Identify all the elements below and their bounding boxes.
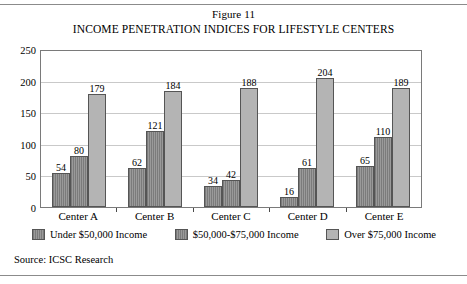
bar-group: 1661204 xyxy=(280,51,334,207)
bar-value-label: 80 xyxy=(74,146,84,156)
y-axis-tick-label: 100 xyxy=(2,139,36,150)
x-axis-labels: Center ACenter BCenter CCenter DCenter E xyxy=(40,210,422,222)
bar[interactable]: 34 xyxy=(204,186,222,207)
legend-item[interactable]: Over $75,000 Income xyxy=(326,229,436,240)
bar-value-label: 42 xyxy=(226,170,236,180)
legend-label: Over $75,000 Income xyxy=(344,229,436,240)
bar-value-label: 121 xyxy=(148,121,163,131)
figure-title-block: Figure 11 INCOME PENETRATION INDICES FOR… xyxy=(0,8,467,36)
plot-wrapper: 5480179621211843442188166120465110189 xyxy=(40,50,422,208)
bar-slot: 204 xyxy=(316,51,334,207)
y-axis-labels: 050100150200250 xyxy=(0,50,36,208)
bar-value-label: 34 xyxy=(208,176,218,186)
bar[interactable]: 62 xyxy=(128,168,146,207)
bottom-divider-rule xyxy=(0,275,467,276)
bar-value-label: 189 xyxy=(394,78,409,88)
bar-slot: 80 xyxy=(70,51,88,207)
bar[interactable]: 189 xyxy=(392,88,410,207)
bar-value-label: 61 xyxy=(302,158,312,168)
figure-container: Figure 11 INCOME PENETRATION INDICES FOR… xyxy=(0,0,467,284)
bar-value-label: 184 xyxy=(166,81,181,91)
bar[interactable]: 42 xyxy=(222,180,240,207)
bar[interactable]: 188 xyxy=(240,88,258,207)
bar-group: 3442188 xyxy=(204,51,258,207)
bar-slot: 188 xyxy=(240,51,258,207)
bar-value-label: 188 xyxy=(242,78,257,88)
legend-swatch-icon xyxy=(175,229,188,240)
chart-legend: Under $50,000 Income$50,000-$75,000 Inco… xyxy=(32,229,436,240)
top-divider-rule xyxy=(0,4,467,5)
bar[interactable]: 16 xyxy=(280,197,298,207)
bar[interactable]: 121 xyxy=(146,131,164,207)
bar-group: 65110189 xyxy=(356,51,410,207)
bar-slot: 121 xyxy=(146,51,164,207)
bar-value-label: 62 xyxy=(132,158,142,168)
bar[interactable]: 184 xyxy=(164,91,182,207)
legend-swatch-icon xyxy=(32,229,45,240)
bar-slot: 189 xyxy=(392,51,410,207)
bar-group: 5480179 xyxy=(52,51,106,207)
bar-slot: 34 xyxy=(204,51,222,207)
bar[interactable]: 65 xyxy=(356,166,374,207)
bar-slot: 110 xyxy=(374,51,392,207)
legend-swatch-icon xyxy=(326,229,339,240)
bar-slot: 16 xyxy=(280,51,298,207)
bar-value-label: 54 xyxy=(56,163,66,173)
bar-slot: 42 xyxy=(222,51,240,207)
bar-groups: 5480179621211843442188166120465110189 xyxy=(41,51,421,207)
legend-item[interactable]: $50,000-$75,000 Income xyxy=(175,229,299,240)
bar[interactable]: 80 xyxy=(70,156,88,207)
bar-slot: 179 xyxy=(88,51,106,207)
y-axis-tick-label: 0 xyxy=(2,203,36,214)
bar-value-label: 65 xyxy=(360,156,370,166)
x-axis-category-label: Center A xyxy=(58,210,97,222)
bar[interactable]: 179 xyxy=(88,94,106,207)
bar-slot: 54 xyxy=(52,51,70,207)
y-axis-tick-label: 200 xyxy=(2,76,36,87)
x-axis-category-label: Center C xyxy=(211,210,250,222)
y-axis-tick-label: 50 xyxy=(2,171,36,182)
bar[interactable]: 61 xyxy=(298,168,316,207)
bar-value-label: 204 xyxy=(318,68,333,78)
bar-slot: 62 xyxy=(128,51,146,207)
x-axis-category-label: Center E xyxy=(365,210,404,222)
legend-item[interactable]: Under $50,000 Income xyxy=(32,229,147,240)
figure-number-label: Figure 11 xyxy=(0,8,467,22)
bar-value-label: 16 xyxy=(284,187,294,197)
x-axis-category-label: Center B xyxy=(135,210,174,222)
bar-group: 62121184 xyxy=(128,51,182,207)
bar-value-label: 110 xyxy=(376,127,391,137)
x-axis-category-label: Center D xyxy=(288,210,328,222)
legend-label: Under $50,000 Income xyxy=(50,229,147,240)
bar[interactable]: 204 xyxy=(316,78,334,207)
bar[interactable]: 110 xyxy=(374,137,392,207)
source-note: Source: ICSC Research xyxy=(14,254,113,265)
legend-label: $50,000-$75,000 Income xyxy=(193,229,299,240)
chart-title: INCOME PENETRATION INDICES FOR LIFESTYLE… xyxy=(0,22,467,36)
bar-slot: 184 xyxy=(164,51,182,207)
y-axis-tick-label: 150 xyxy=(2,108,36,119)
bar-value-label: 179 xyxy=(90,84,105,94)
y-axis-tick-label: 250 xyxy=(2,45,36,56)
bar[interactable]: 54 xyxy=(52,173,70,207)
bar-slot: 61 xyxy=(298,51,316,207)
bar-slot: 65 xyxy=(356,51,374,207)
